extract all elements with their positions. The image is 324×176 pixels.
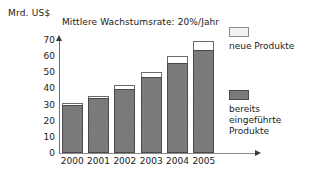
bar-series-group: [59, 40, 217, 153]
x-axis-tick-label: 2004: [165, 156, 191, 166]
y-axis-tick-label: 30: [44, 100, 55, 110]
bar-segment-new-products[interactable]: [193, 41, 214, 50]
y-axis-tick-label: 60: [44, 51, 55, 61]
legend-swatch-icon-existing-products: [229, 90, 249, 100]
x-axis-tick-labels: 200020012002200320042005: [59, 156, 217, 170]
y-axis-tick-label: 10: [44, 132, 55, 142]
chart-title: Mittlere Wachstumsrate: 20%/Jahr: [62, 17, 219, 27]
bar-segment-existing-products[interactable]: [167, 63, 188, 153]
x-axis-tick-label: 2002: [112, 156, 138, 166]
bar-segment-existing-products[interactable]: [141, 77, 162, 153]
x-axis-tick-label: 2000: [59, 156, 85, 166]
bar-segment-existing-products[interactable]: [62, 105, 83, 153]
x-axis-tick-label: 2003: [138, 156, 164, 166]
bar-segment-existing-products[interactable]: [114, 89, 135, 153]
legend-entry-existing-products: bereits eingeführte Produkte: [229, 90, 321, 137]
y-axis-tick-label: 20: [44, 116, 55, 126]
x-axis-arrow-icon: [255, 150, 261, 156]
legend-label-new-products: neue Produkte: [229, 41, 321, 52]
legend-entry-new-products: neue Produkte: [229, 27, 321, 52]
x-axis-tick-label: 2001: [86, 156, 112, 166]
y-axis-tick-label: 50: [44, 67, 55, 77]
bar-group[interactable]: [62, 103, 83, 153]
bar-group[interactable]: [167, 56, 188, 153]
bar-group[interactable]: [114, 85, 135, 153]
bar-group[interactable]: [88, 96, 109, 153]
legend-label-existing-products: bereits eingeführte Produkte: [229, 104, 321, 137]
legend-swatch-icon-new-products: [229, 27, 249, 37]
bar-segment-existing-products[interactable]: [193, 50, 214, 153]
y-axis-tick-labels: 010203040506070: [26, 40, 55, 153]
x-axis-tick-label: 2005: [191, 156, 217, 166]
y-axis-tick-label: 40: [44, 83, 55, 93]
chart-container: Mrd. US$ Mittlere Wachstumsrate: 20%/Jah…: [0, 0, 324, 176]
bar-group[interactable]: [193, 41, 214, 153]
y-axis-tick-label: 70: [44, 35, 55, 45]
bar-group[interactable]: [141, 72, 162, 154]
bar-segment-existing-products[interactable]: [88, 98, 109, 153]
y-axis-tick-label: 0: [49, 148, 55, 158]
y-axis-unit-label: Mrd. US$: [8, 8, 50, 18]
plot-area: [59, 40, 217, 153]
x-axis-line: [59, 153, 256, 154]
